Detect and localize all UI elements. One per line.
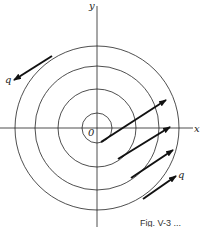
vector-arrow-4 [143, 176, 176, 199]
origin-label: 0 [88, 127, 94, 138]
vector-label-q-bottom: q [178, 169, 184, 180]
vector-arrow-2 [118, 127, 170, 159]
figure-caption: Fig. V-3 ... [140, 218, 181, 227]
vector-arrow-3 [131, 150, 173, 178]
circular-flow-diagram [0, 0, 201, 227]
x-axis-label: x [194, 123, 200, 134]
vector-label-q-top: q [5, 74, 11, 85]
y-axis-label: y [89, 0, 95, 11]
